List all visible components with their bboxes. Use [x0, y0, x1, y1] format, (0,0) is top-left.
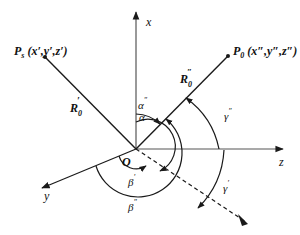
- arc-beta-double: [96, 119, 182, 197]
- arc-gamma-double: [186, 98, 219, 149]
- gamma-double-label: γ″: [224, 107, 232, 122]
- z-axis-label: z: [278, 155, 284, 169]
- vector-R0-prime: [45, 57, 136, 149]
- R0-prime-label: R0′: [69, 95, 82, 118]
- arc-alpha-prime: [136, 119, 175, 171]
- projection-dashed-line: [136, 149, 246, 222]
- x-axis-label: x: [145, 15, 152, 29]
- point-P0-label: P0(x″,y″,z″): [233, 44, 297, 60]
- coordinate-diagram: x z y O Ps(x′,y′,z′) P0(x″,y″,z″) R0′ R0…: [0, 0, 300, 235]
- beta-prime-label: β′: [127, 173, 135, 188]
- arc-gamma-prime: [198, 150, 224, 208]
- y-axis-label: y: [43, 189, 50, 203]
- point-Ps-label: Ps(x′,y′,z′): [14, 44, 68, 60]
- gamma-prime-label: γ′: [223, 179, 229, 194]
- beta-double-label: β″: [127, 198, 137, 213]
- origin-label: O: [122, 155, 131, 169]
- vector-R0-double: [136, 56, 228, 149]
- R0-double-label: R0″: [179, 67, 192, 89]
- alpha-prime-label: α: [139, 111, 145, 123]
- point-P0: [226, 54, 230, 58]
- alpha-double-label: α″: [138, 96, 148, 111]
